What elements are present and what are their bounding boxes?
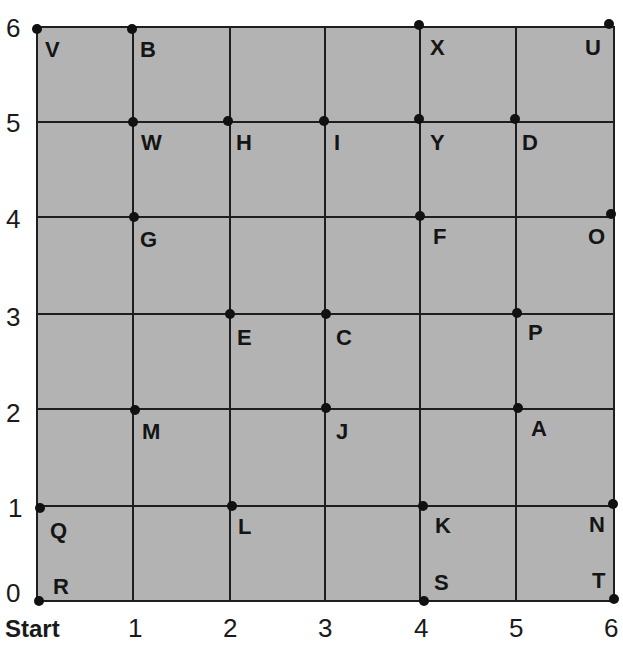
y-tick-2: 2 [6, 400, 20, 426]
point-c-label: C [336, 327, 352, 349]
point-s-label: S [434, 572, 449, 594]
y-tick-3: 3 [6, 304, 20, 330]
point-b-label: B [140, 39, 156, 61]
point-i-dot [319, 116, 329, 126]
point-t-label: T [592, 570, 605, 592]
x-tick-4: 4 [414, 615, 428, 641]
point-v-label: V [45, 39, 60, 61]
point-s-dot [419, 596, 429, 606]
point-j-label: J [336, 421, 348, 443]
y-tick-1: 1 [8, 495, 22, 521]
point-b-dot [127, 24, 137, 34]
point-v-dot [32, 24, 42, 34]
x-tick-1: 1 [128, 615, 142, 641]
point-x-dot [414, 20, 424, 30]
point-w-label: W [141, 132, 162, 154]
point-l-dot [227, 501, 237, 511]
point-e-label: E [237, 327, 252, 349]
point-h-label: H [236, 132, 252, 154]
point-f-label: F [433, 226, 446, 248]
point-r-dot [34, 596, 44, 606]
point-d-label: D [522, 132, 538, 154]
grid-line-x4 [419, 26, 421, 601]
point-k-dot [418, 501, 428, 511]
x-tick-5: 5 [509, 615, 523, 641]
point-p-label: P [528, 322, 543, 344]
point-o-dot [606, 209, 616, 219]
y-tick-5: 5 [6, 110, 20, 136]
start-label: Start [5, 617, 60, 641]
point-y-label: Y [430, 132, 445, 154]
point-p-dot [512, 308, 522, 318]
x-tick-6: 6 [604, 615, 618, 641]
point-n-label: N [589, 514, 605, 536]
grid-line-x0 [36, 26, 38, 601]
point-o-label: O [588, 226, 605, 248]
point-y-dot [414, 114, 424, 124]
point-h-dot [223, 116, 233, 126]
point-r-label: R [53, 576, 69, 598]
point-q-label: Q [50, 520, 67, 542]
point-e-dot [225, 309, 235, 319]
y-tick-6: 6 [6, 15, 20, 41]
point-g-dot [129, 212, 139, 222]
grid-line-x1 [132, 26, 134, 601]
x-tick-3: 3 [318, 615, 332, 641]
point-c-dot [321, 309, 331, 319]
point-g-label: G [140, 229, 157, 251]
y-tick-4: 4 [6, 206, 20, 232]
point-u-dot [604, 19, 614, 29]
point-q-dot [35, 503, 45, 513]
grid-line-x6 [613, 26, 615, 601]
x-tick-2: 2 [223, 615, 237, 641]
point-w-dot [128, 117, 138, 127]
point-l-label: L [238, 516, 251, 538]
point-t-dot [609, 594, 619, 604]
point-u-label: U [585, 37, 601, 59]
point-i-label: I [334, 132, 340, 154]
point-k-label: K [435, 515, 451, 537]
point-d-dot [510, 114, 520, 124]
point-m-dot [130, 405, 140, 415]
y-tick-0: 0 [6, 580, 20, 606]
point-m-label: M [142, 421, 160, 443]
point-x-label: X [430, 37, 445, 59]
point-a-label: A [531, 418, 547, 440]
point-n-dot [608, 499, 618, 509]
point-a-dot [513, 403, 523, 413]
point-f-dot [415, 211, 425, 221]
point-j-dot [321, 403, 331, 413]
